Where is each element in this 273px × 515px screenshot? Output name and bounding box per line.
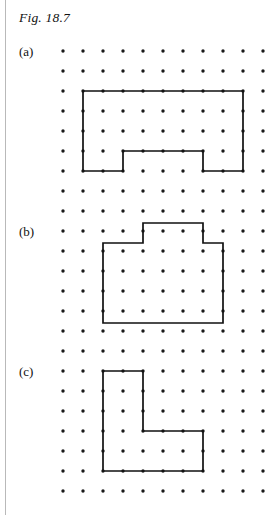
figure-page: Fig. 18.7 (a) (b) (c) (0, 0, 273, 515)
shape-a-polygon (83, 91, 243, 171)
shape-b-polygon (103, 223, 223, 323)
shape-c-polygon (103, 371, 203, 471)
shapes-layer (0, 0, 273, 515)
